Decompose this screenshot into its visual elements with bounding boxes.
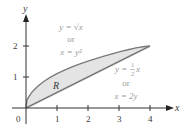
y-tick-label-2: 2: [13, 41, 18, 51]
lower-eq-line1-post: x: [135, 64, 140, 74]
lower-eq-frac-num: 1: [131, 61, 134, 68]
upper-eq-line1: y = √x: [58, 22, 83, 32]
x-tick-label-4: 4: [148, 114, 153, 124]
x-tick-label-3: 3: [117, 114, 122, 124]
y-axis-label: y: [22, 3, 28, 14]
upper-eq-line3: x = y²: [59, 47, 82, 57]
lower-eq-line3: x = 2y: [113, 91, 137, 101]
x-axis-arrow-icon: [166, 105, 174, 111]
upper-eq-line2: or: [67, 34, 75, 44]
lower-eq-line1-pre: y =: [114, 64, 127, 74]
lower-eq-line2: or: [122, 78, 130, 88]
x-tick-label-2: 2: [86, 114, 91, 124]
y-tick-label-1: 1: [13, 72, 18, 82]
x-tick-label-0: 0: [16, 114, 21, 124]
x-tick-label-1: 1: [55, 114, 60, 124]
region-diagram: y x 0 1 2 3 4 1 2 R y = √x or x = y² y =…: [0, 0, 182, 128]
y-axis-arrow-icon: [23, 14, 29, 22]
x-axis-label: x: [174, 102, 180, 113]
region-label: R: [52, 80, 59, 91]
lower-eq-frac-den: 2: [131, 70, 134, 77]
